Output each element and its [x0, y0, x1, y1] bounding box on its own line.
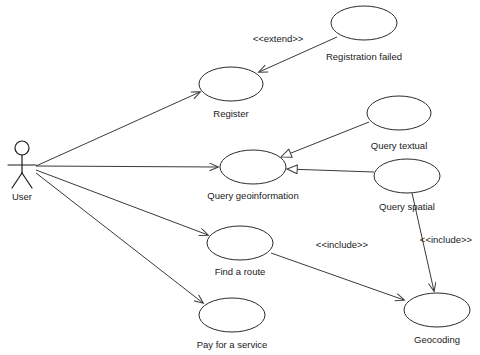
use-case-register[interactable]: Register	[199, 67, 263, 119]
use-case-ellipse[interactable]	[207, 226, 273, 260]
edge-query-spatial-generalization	[287, 169, 374, 172]
use-case-label: Query geoinformation	[207, 190, 298, 201]
use-case-ellipse[interactable]	[367, 96, 431, 130]
use-cases-group: Registration failed Register Query textu…	[197, 6, 470, 350]
use-case-label: Registration failed	[326, 51, 402, 62]
use-case-label: Query textual	[371, 140, 428, 151]
use-case-registration-failed[interactable]: Registration failed	[326, 6, 402, 62]
actor-left-leg-icon	[12, 173, 22, 188]
actor-head-icon	[15, 141, 29, 155]
use-case-label: Register	[213, 108, 248, 119]
use-case-ellipse[interactable]	[199, 67, 263, 101]
use-case-ellipse[interactable]	[404, 293, 470, 327]
use-case-geocoding[interactable]: Geocoding	[404, 293, 470, 345]
stereotype-label-include-find-a-route: <<include>>	[316, 239, 369, 250]
use-case-query-geoinformation[interactable]: Query geoinformation	[207, 150, 298, 201]
edge-user-to-query-geoinformation	[36, 166, 218, 167]
use-case-label: Find a route	[215, 266, 266, 277]
use-case-diagram-canvas: <<extend>> <<include>> <<include>> Regis…	[0, 0, 480, 355]
actor-user[interactable]: User	[8, 141, 36, 202]
edge-query-textual-generalization	[281, 122, 369, 157]
stereotype-label-include-query-spatial: <<include>>	[420, 234, 473, 245]
edge-user-to-register	[36, 92, 200, 166]
use-case-label: Query spatial	[379, 201, 435, 212]
use-case-query-textual[interactable]: Query textual	[367, 96, 431, 151]
edge-user-to-find-a-route	[36, 170, 208, 235]
use-case-ellipse[interactable]	[220, 150, 286, 184]
use-case-label: Geocoding	[414, 334, 460, 345]
actor-right-leg-icon	[22, 173, 32, 188]
use-case-find-a-route[interactable]: Find a route	[207, 226, 273, 277]
use-case-ellipse[interactable]	[199, 298, 265, 332]
use-case-ellipse[interactable]	[331, 6, 397, 40]
edge-find-a-route-include-geocoding	[271, 253, 404, 300]
use-case-ellipse[interactable]	[374, 159, 440, 193]
use-case-label: Pay for a service	[197, 339, 268, 350]
relationship-labels-group: <<extend>> <<include>> <<include>>	[253, 33, 473, 250]
edge-user-to-pay-for-a-service	[36, 173, 203, 303]
uml-diagram-svg: <<extend>> <<include>> <<include>> Regis…	[0, 0, 480, 355]
use-case-pay-for-a-service[interactable]: Pay for a service	[197, 298, 268, 350]
actor-label: User	[12, 191, 32, 202]
stereotype-label-extend: <<extend>>	[253, 33, 304, 44]
use-case-query-spatial[interactable]: Query spatial	[374, 159, 440, 212]
